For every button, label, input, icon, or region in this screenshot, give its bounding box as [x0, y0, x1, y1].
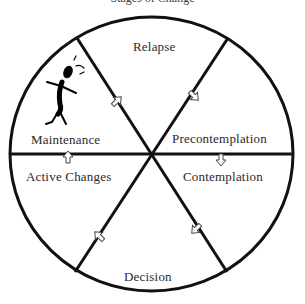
stage-label-contemplation: Contemplation: [183, 169, 263, 185]
stage-label-active-changes: Active Changes: [26, 169, 111, 185]
stick-figure-icon: [46, 56, 84, 124]
stage-label-precontemplation: Precontemplation: [172, 131, 267, 147]
stage-label-maintenance: Maintenance: [31, 132, 100, 148]
stage-label-relapse: Relapse: [133, 39, 176, 55]
stage-label-decision: Decision: [124, 269, 172, 285]
